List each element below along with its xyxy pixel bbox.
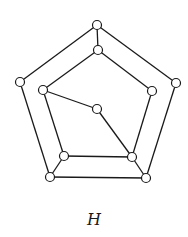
- node-outer-left: [16, 78, 25, 87]
- node-inner-bottom-right: [128, 153, 137, 162]
- node-outer-right: [172, 79, 181, 88]
- graph-label: H: [0, 210, 188, 229]
- node-outer-top: [93, 21, 102, 30]
- edge-inner-bottom-left-inner-left: [43, 90, 64, 156]
- edge-inner-bottom-right-inner-bottom-left: [64, 156, 132, 157]
- edge-inner-left-center: [43, 90, 97, 109]
- graph-diagram: [0, 0, 188, 237]
- edge-center-inner-bottom-right: [97, 109, 132, 157]
- edge-outer-left-outer-top: [20, 25, 97, 82]
- edge-inner-right-inner-bottom-right: [132, 91, 152, 157]
- node-outer-bottom-right: [142, 174, 151, 183]
- edge-outer-top-outer-right: [97, 25, 176, 83]
- edge-outer-bottom-right-outer-bottom-left: [50, 177, 146, 178]
- node-inner-bottom-left: [60, 152, 69, 161]
- edge-inner-top-inner-right: [98, 50, 152, 91]
- node-outer-bottom-left: [46, 173, 55, 182]
- node-inner-top: [94, 46, 103, 55]
- node-center: [93, 105, 102, 114]
- node-inner-right: [148, 87, 157, 96]
- node-inner-left: [39, 86, 48, 95]
- edge-inner-left-inner-top: [43, 50, 98, 90]
